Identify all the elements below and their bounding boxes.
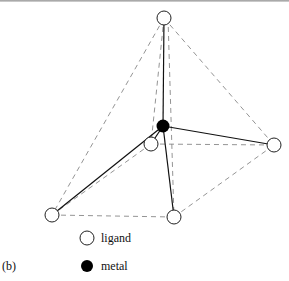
legend-ligand-label: ligand [101, 231, 131, 246]
ligand-right [267, 138, 281, 152]
ligand-back [144, 137, 158, 151]
square-pyramid-diagram [0, 0, 289, 281]
legend-metal-label: metal [101, 259, 128, 274]
bonds [52, 18, 274, 217]
ligand-bottom-left [45, 208, 59, 222]
legend-ligand-icon [80, 231, 94, 245]
legend-metal-icon [81, 260, 93, 272]
ligand-top [157, 11, 171, 25]
panel-label: (b) [2, 259, 16, 274]
metal-center [157, 120, 170, 133]
ligand-bottom-right [167, 210, 181, 224]
